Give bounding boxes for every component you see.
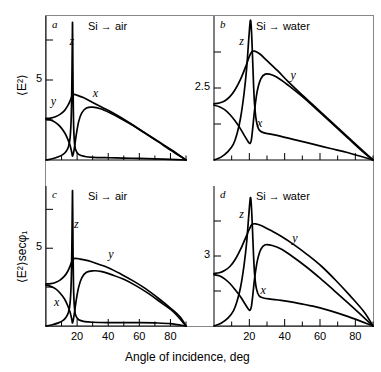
plot-text-layer: aSi → air5zyxbSi → water2.5zyxcSi → air5… — [0, 0, 381, 372]
curve-label-c-z: z — [74, 217, 79, 232]
panel-letter-a: a — [52, 18, 58, 30]
x-tick-label-c-3: 80 — [160, 330, 180, 342]
curve-label-d-z: z — [239, 207, 244, 222]
curve-label-d-y: y — [292, 231, 297, 246]
figure-root: ⟨E²⟩ ⟨E²⟩secφ₁ Angle of incidence, deg a… — [0, 0, 381, 372]
x-tick-label-c-0: 20 — [67, 330, 87, 342]
x-tick-label-d-0: 20 — [239, 330, 259, 342]
curve-label-c-x: x — [54, 295, 59, 310]
curve-label-a-y: y — [51, 94, 56, 109]
x-tick-label-d-2: 60 — [310, 330, 330, 342]
x-tick-label-d-1: 40 — [275, 330, 295, 342]
curve-label-b-x: x — [257, 116, 262, 131]
panel-title-c: Si → air — [88, 190, 127, 202]
x-tick-label-c-2: 60 — [129, 330, 149, 342]
panel-title-a: Si → air — [88, 20, 127, 32]
curve-label-b-y: y — [291, 68, 296, 83]
curve-label-d-x: x — [260, 283, 265, 298]
panel-title-d: Si → water — [256, 190, 310, 202]
x-tick-label-c-1: 40 — [98, 330, 118, 342]
curve-label-a-z: z — [69, 34, 74, 49]
y-tick-label-d-0: 3 — [0, 248, 210, 260]
x-tick-label-d-3: 80 — [345, 330, 365, 342]
curve-label-b-z: z — [239, 34, 244, 49]
panel-letter-b: b — [220, 18, 226, 30]
panel-letter-d: d — [220, 188, 226, 200]
panel-title-b: Si → water — [256, 20, 310, 32]
panel-letter-c: c — [52, 188, 57, 200]
y-tick-label-b-0: 2.5 — [0, 80, 210, 92]
